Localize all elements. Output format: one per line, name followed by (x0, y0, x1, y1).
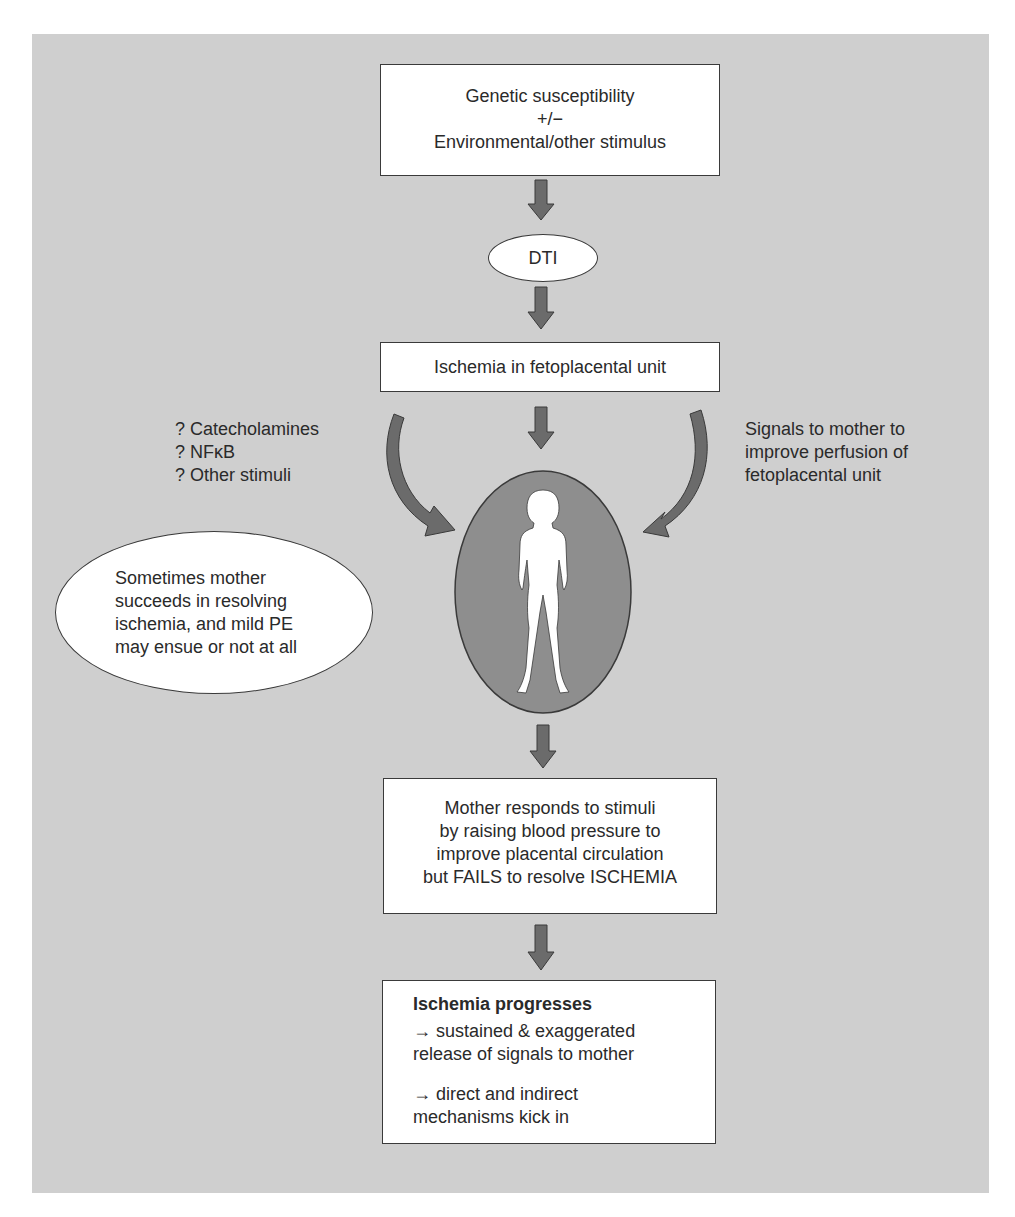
arrow-down-icon (528, 925, 554, 970)
box-line: Ischemia in fetoplacental unit (381, 356, 719, 379)
arrow-down-icon (528, 180, 554, 220)
box-line: +/− (381, 108, 719, 131)
dti-node: DTI (488, 234, 598, 282)
arrow-down-icon (528, 407, 554, 449)
box-line: but FAILS to resolve ISCHEMIA (384, 866, 716, 889)
curved-arrow-right-icon (643, 410, 707, 537)
box-line: → sustained & exaggerated (413, 1020, 715, 1043)
dti-label: DTI (529, 248, 558, 269)
box-line: Mother responds to stimuli (384, 797, 716, 820)
stimuli-list: ? Catecholamines ? NFκB ? Other stimuli (175, 418, 319, 487)
box-line: → direct and indirect (413, 1083, 715, 1106)
signals-line: Signals to mother to (745, 418, 908, 441)
curved-arrow-left-icon (387, 414, 455, 536)
stimulus-item: ? Catecholamines (175, 418, 319, 441)
box-line: mechanisms kick in (413, 1106, 715, 1129)
box-line: release of signals to mother (413, 1043, 715, 1066)
box-line: improve placental circulation (384, 843, 716, 866)
ellipse-line: succeeds in resolving (115, 590, 297, 613)
signals-label: Signals to mother to improve perfusion o… (745, 418, 908, 487)
signals-line: improve perfusion of (745, 441, 908, 464)
stimulus-item: ? NFκB (175, 441, 319, 464)
signals-line: fetoplacental unit (745, 464, 908, 487)
box-line: Genetic susceptibility (381, 85, 719, 108)
ischemia-unit-box: Ischemia in fetoplacental unit (380, 342, 720, 392)
stimulus-item: ? Other stimuli (175, 464, 319, 487)
box-line: by raising blood pressure to (384, 820, 716, 843)
ischemia-progresses-box: Ischemia progresses → sustained & exagge… (382, 980, 716, 1144)
mother-responds-box: Mother responds to stimuli by raising bl… (383, 778, 717, 914)
mother-succeeds-node: Sometimes mother succeeds in resolving i… (55, 531, 373, 694)
genetic-stimulus-box: Genetic susceptibility +/− Environmental… (380, 64, 720, 176)
box-title: Ischemia progresses (413, 993, 715, 1016)
ellipse-line: may ensue or not at all (115, 636, 297, 659)
arrow-down-icon (530, 725, 556, 768)
box-line: Environmental/other stimulus (381, 131, 719, 154)
ellipse-line: Sometimes mother (115, 567, 297, 590)
ellipse-line: ischemia, and mild PE (115, 613, 297, 636)
arrow-down-icon (528, 287, 554, 329)
